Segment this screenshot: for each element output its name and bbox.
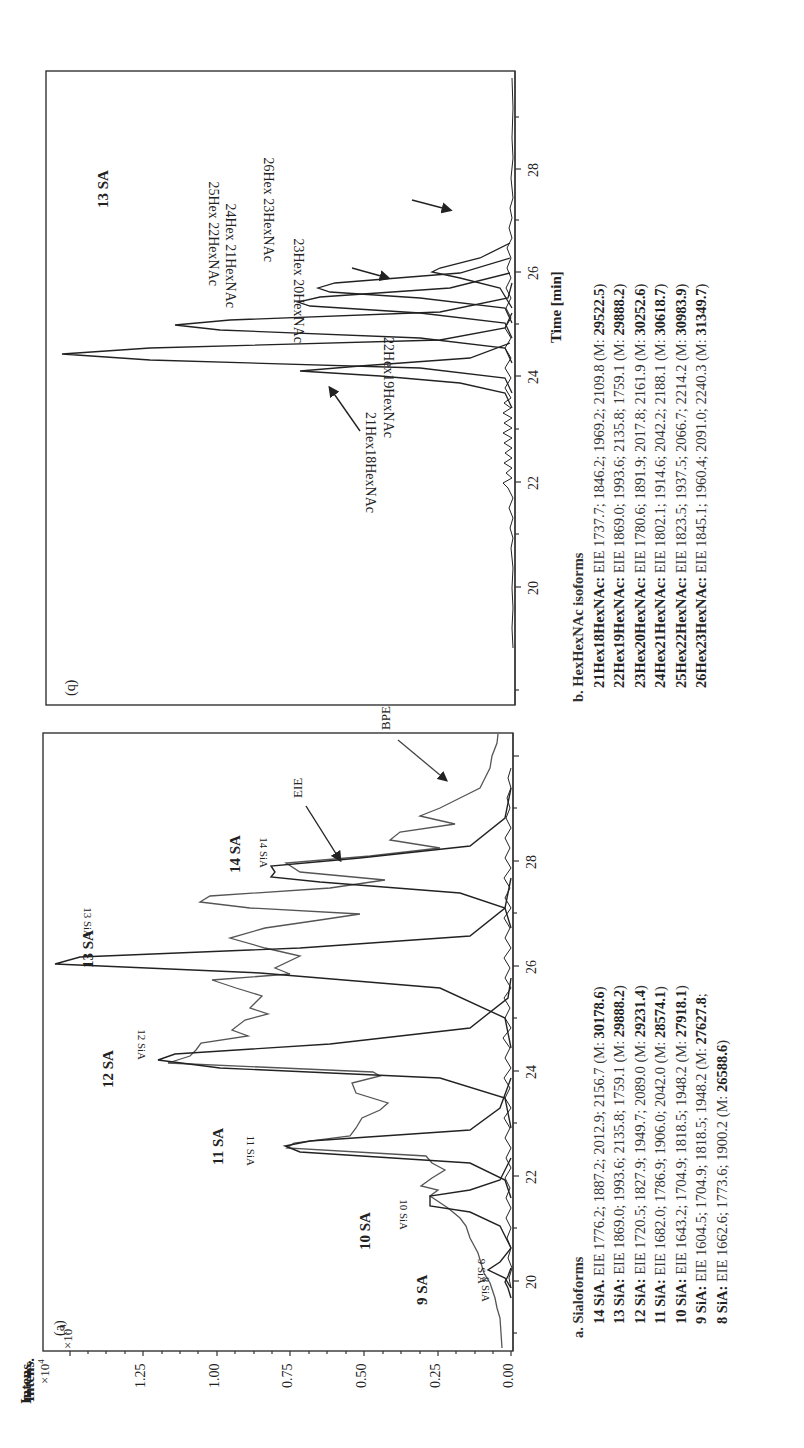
ytick: 1.00 bbox=[207, 1364, 223, 1389]
legend-a-row: 14 SiA. EIE 1776.2; 1887.2; 2012.9; 2156… bbox=[589, 985, 610, 1338]
label-bpe: BPE bbox=[378, 706, 394, 730]
legend-b-row: 25Hex22HexNAc: EIE 1823.5; 1937.5; 2066.… bbox=[671, 284, 692, 702]
label-9sia: 9 SiA bbox=[476, 1259, 488, 1284]
label-13sia: 13 SiA bbox=[82, 907, 94, 938]
label-14sia: 14 SiA bbox=[258, 837, 270, 868]
legend-b-row: 21Hex18HexNAc: EIE 1737.7; 1846.2; 1969.… bbox=[589, 284, 610, 702]
panel-b-xaxis bbox=[515, 71, 521, 705]
panel-a-xaxis bbox=[513, 733, 519, 1351]
legend-b-row: 24Hex21HexNAc: EIE 1802.1; 1914.6; 2042.… bbox=[650, 284, 671, 702]
xtick: 28 bbox=[526, 163, 542, 177]
label-22hex19hexnac: 22Hex19HexNAc bbox=[380, 337, 396, 438]
xtick: 24 bbox=[524, 1065, 540, 1079]
legend-sialoforms: a. Sialoforms 14 SiA. EIE 1776.2; 1887.2… bbox=[568, 985, 732, 1338]
y-axis-title-text: Intens. bbox=[18, 1360, 35, 1404]
legend-b-row: 26Hex23HexNAc: EIE 1845.1; 1960.4; 2091.… bbox=[691, 284, 712, 702]
eie-traces bbox=[55, 788, 511, 1298]
ytick: 0.00 bbox=[501, 1364, 517, 1389]
xtick: 26 bbox=[524, 960, 540, 974]
legend-b-row: 22Hex19HexNAc: EIE 1869.0; 1993.6; 2135.… bbox=[609, 284, 630, 702]
bpe-arrow bbox=[398, 740, 446, 780]
label-23hex20hexnac: 23Hex 20HexNAc bbox=[290, 238, 306, 343]
eie-14sia bbox=[271, 788, 511, 928]
y-multiplier-text: ×104 bbox=[36, 1359, 53, 1384]
label-11sia: 11 SiA bbox=[245, 1136, 257, 1166]
hexnac-traces bbox=[62, 243, 512, 408]
xtick: 22 bbox=[526, 476, 542, 490]
panel-b-frame bbox=[46, 71, 515, 705]
bpe-trace bbox=[168, 734, 502, 1348]
legend-a-row: 9 SiA: EIE 1604.5; 1704.9; 1818.5; 1948.… bbox=[691, 985, 712, 1338]
panel-a bbox=[43, 733, 519, 1356]
panel-b bbox=[46, 71, 521, 705]
label-10sia: 10 SiA bbox=[398, 1199, 410, 1230]
arrow-25hex22hexnac bbox=[352, 268, 388, 278]
label-12sia: 12 SiA bbox=[136, 1029, 148, 1060]
legend-a-row: 11 SiA: EIE 1682.0; 1786.9; 1906.0; 2042… bbox=[650, 985, 671, 1338]
legend-a-row: 8 SiA: EIE 1662.6; 1773.6; 1900.2 (M: 26… bbox=[712, 985, 733, 1338]
legend-a-heading: a. Sialoforms bbox=[568, 985, 589, 1338]
x-axis-title: Time [min] bbox=[548, 271, 565, 343]
label-eie: EIE bbox=[290, 778, 306, 798]
eie-arrow bbox=[306, 806, 340, 860]
label-11sa: 11 SA bbox=[210, 1128, 227, 1165]
xtick: 26 bbox=[526, 266, 542, 280]
legend-a-row: 13 SiA: EIE 1869.0; 1993.6; 2135.8; 1759… bbox=[609, 985, 630, 1338]
ytick: 0.50 bbox=[354, 1364, 370, 1389]
panel-b-label: (b) bbox=[64, 680, 80, 696]
legend-b-heading: b. HexHexNAc isoforms bbox=[568, 284, 589, 702]
xtick: 28 bbox=[524, 855, 540, 869]
ytick: 1.25 bbox=[133, 1364, 149, 1389]
panel-b-title: 13 SA bbox=[95, 170, 112, 208]
legend-a-row: 10 SiA: EIE 1643.2; 1704.9; 1818.5; 1948… bbox=[671, 985, 692, 1338]
y-axis-multiplier: ×104 bbox=[58, 1324, 75, 1349]
label-21hex18hexnac: 21Hex18HexNAc bbox=[362, 412, 378, 513]
xtick: 20 bbox=[524, 1275, 540, 1289]
ytick: 0.25 bbox=[428, 1364, 444, 1389]
legend-hexnac-isoforms: b. HexHexNAc isoforms 21Hex18HexNAc: EIE… bbox=[568, 284, 712, 702]
eie-11sia bbox=[285, 1078, 511, 1198]
ytick: 0.75 bbox=[280, 1364, 296, 1389]
label-25hex22hexnac: 25Hex 22HexNAc bbox=[205, 181, 221, 286]
label-24hex21hexnac: 24Hex 21HexNAc bbox=[222, 203, 238, 308]
panel-a-yaxis bbox=[70, 1351, 511, 1356]
arrow-26hex23hexnac bbox=[412, 200, 450, 210]
label-10sa: 10 SA bbox=[357, 1212, 374, 1250]
xtick: 20 bbox=[526, 581, 542, 595]
label-26hex23hexnac: 26Hex 23HexNAc bbox=[260, 157, 276, 262]
label-14sa: 14 SA bbox=[227, 835, 244, 873]
eie-12sia bbox=[158, 978, 511, 1128]
legend-b-row: 23Hex20HexNAc: EIE 1780.6; 1891.9; 2017.… bbox=[630, 284, 651, 702]
eie-13sia bbox=[55, 878, 511, 1048]
xtick: 24 bbox=[526, 370, 542, 384]
legend-a-row: 12 SiA: EIE 1720.5; 1827.9; 1949.7; 2089… bbox=[630, 985, 651, 1338]
label-9sa: 9 SA bbox=[414, 1275, 431, 1305]
arrow-21hex18hexnac bbox=[330, 388, 360, 431]
figure: (a) Intens. ×104 1.25 1.00 0.75 0.50 0.2… bbox=[0, 0, 804, 1448]
label-12sa: 12 SA bbox=[100, 1050, 117, 1088]
xtick: 22 bbox=[524, 1170, 540, 1184]
